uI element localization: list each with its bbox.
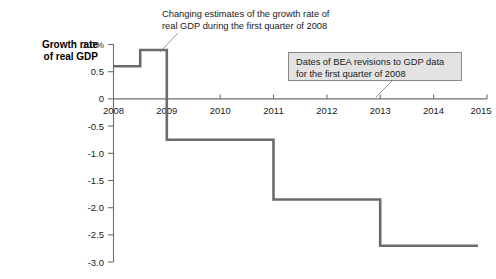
x-tick-label: 2014 xyxy=(423,105,444,116)
x-tick-label: 2011 xyxy=(263,105,283,116)
y-tick-label: -3.0 xyxy=(88,257,104,268)
y-tick-label: -2.0 xyxy=(88,202,104,213)
estimates-note-line2: real GDP during the first quarter of 200… xyxy=(162,21,327,31)
chart-figure: Growth rate of real GDP 1.0% 0.5 0 -0.5 … xyxy=(0,0,496,279)
x-tick-label: 2008 xyxy=(103,105,124,116)
estimates-note-line1: Changing estimates of the growth rate of xyxy=(162,9,330,19)
y-tick-label: -1.5 xyxy=(88,175,104,186)
y-tick-label: 0.5 xyxy=(91,66,104,77)
y-axis-title-line2: of real GDP xyxy=(44,51,99,62)
x-tick-group: 2008 2009 2010 2011 2012 2013 2014 2015 xyxy=(103,95,492,116)
y-tick-label: -2.5 xyxy=(88,229,104,240)
x-tick-label: 2013 xyxy=(370,105,391,116)
y-tick-group: 1.0% 0.5 0 -0.5 -1.0 -1.5 -2.0 -2.5 -3.0 xyxy=(82,39,113,268)
y-tick-label: 1.0% xyxy=(82,39,104,50)
bea-revisions-note-leader-line xyxy=(376,81,392,97)
x-tick-label: 2010 xyxy=(210,105,231,116)
estimates-note-leader-line xyxy=(160,33,178,52)
bea-revisions-note-line2: for the first quarter of 2008 xyxy=(296,69,406,79)
y-tick-label: -1.0 xyxy=(88,148,104,159)
y-tick-label: -0.5 xyxy=(88,121,104,132)
y-tick-label: 0 xyxy=(99,93,104,104)
bea-revisions-note-line1: Dates of BEA revisions to GDP data xyxy=(296,57,445,67)
x-tick-label: 2012 xyxy=(316,105,337,116)
x-tick-label: 2015 xyxy=(470,105,491,116)
chart-svg: Growth rate of real GDP 1.0% 0.5 0 -0.5 … xyxy=(0,0,496,279)
